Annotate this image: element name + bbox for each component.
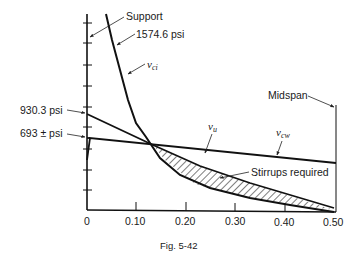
x-tick-020: 0.20 (175, 215, 196, 227)
y-axis (83, 14, 92, 210)
x-tick-050: 0.50 (323, 216, 344, 228)
left-value-930: 930.3 psi (20, 104, 63, 116)
annotations: Support 1574.6 psi vci 930.3 psi 693 ± p… (20, 10, 334, 178)
vci-label: vci (147, 58, 158, 72)
figure-caption: Fig. 5-42 (160, 240, 198, 251)
left-value-693: 693 ± psi (20, 127, 63, 139)
vcw-label: vcw (276, 126, 290, 140)
support-label: Support (126, 10, 163, 22)
x-tick-010: 0.10 (125, 215, 146, 227)
peak-value-label: 1574.6 psi (136, 28, 184, 40)
shear-diagram: 0 0.10 0.20 0.30 0.40 0.50 Support 1574.… (0, 0, 362, 261)
stirrups-label: Stirrups required (251, 166, 329, 178)
midspan-label: Midspan (268, 89, 308, 101)
vcw-line (87, 138, 336, 163)
x-tick-030: 0.30 (225, 215, 246, 227)
vu-label: vu (208, 120, 217, 134)
x-tick-040: 0.40 (274, 216, 295, 228)
x-tick-0: 0 (84, 215, 90, 227)
